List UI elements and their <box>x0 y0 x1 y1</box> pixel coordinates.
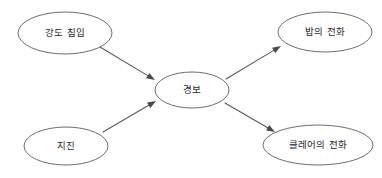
edge-line-earthquake-to-alarm <box>103 105 150 132</box>
node-burglary[interactable]: 강도 침입 <box>18 12 112 54</box>
node-claire-calls[interactable]: 클레어의 전화 <box>263 125 373 165</box>
edge-alarm-to-bob-calls <box>226 46 281 79</box>
arrowhead-alarm-to-bob-calls <box>272 46 281 53</box>
arrowhead-earthquake-to-alarm <box>147 101 156 108</box>
arrowhead-burglary-to-alarm <box>146 73 155 80</box>
nodes-group: 강도 침입지진경보밥의 전화클레어의 전화 <box>18 12 373 165</box>
edge-alarm-to-claire-calls <box>225 103 275 132</box>
node-label-claire-calls: 클레어의 전화 <box>289 139 347 150</box>
edge-earthquake-to-alarm <box>103 101 156 132</box>
bayesian-network-diagram: 강도 침입지진경보밥의 전화클레어의 전화 <box>0 0 382 178</box>
arrowhead-alarm-to-claire-calls <box>266 125 275 132</box>
node-alarm[interactable]: 경보 <box>155 72 229 108</box>
node-label-alarm: 경보 <box>183 84 201 95</box>
edge-line-alarm-to-claire-calls <box>225 103 269 128</box>
edge-line-alarm-to-bob-calls <box>226 50 275 79</box>
node-label-bob-calls: 밥의 전화 <box>305 26 345 37</box>
edge-burglary-to-alarm <box>100 47 155 80</box>
node-label-burglary: 강도 침입 <box>45 27 85 38</box>
node-label-earthquake: 지진 <box>57 140 75 151</box>
diagram-canvas: 강도 침입지진경보밥의 전화클레어의 전화 <box>0 0 382 178</box>
node-earthquake[interactable]: 지진 <box>24 127 108 165</box>
node-bob-calls[interactable]: 밥의 전화 <box>278 12 372 52</box>
edge-line-burglary-to-alarm <box>100 47 149 76</box>
